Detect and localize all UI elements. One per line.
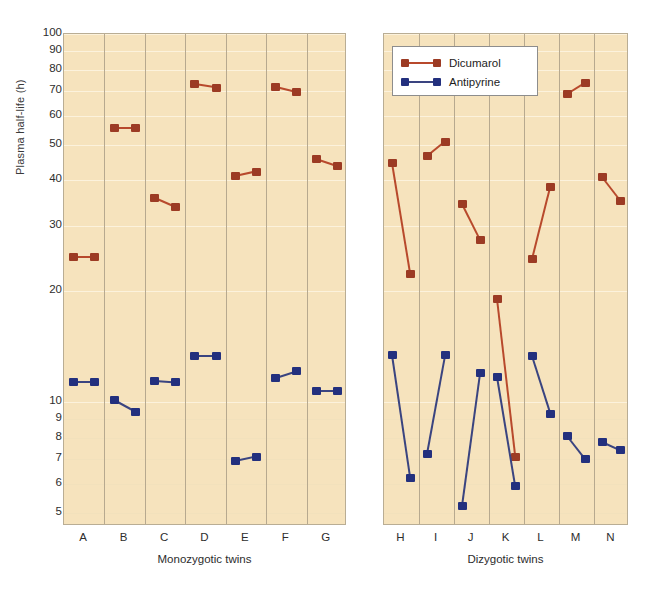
y-axis-tick-50: 50	[30, 138, 62, 150]
plot-panel-monozygotic	[63, 33, 346, 525]
data-point-antipyrine-B-twin2	[131, 408, 140, 416]
gridline-7	[384, 459, 627, 460]
data-point-dicumarol-D-twin1	[190, 80, 199, 88]
data-point-antipyrine-G-twin1	[312, 387, 321, 395]
data-point-dicumarol-K-twin2	[511, 453, 520, 461]
data-point-antipyrine-H-twin1	[388, 351, 397, 359]
y-axis-tick-60: 60	[30, 109, 62, 121]
data-point-dicumarol-J-twin2	[476, 236, 485, 244]
data-point-dicumarol-C-twin2	[171, 203, 180, 211]
legend-item-antipyrine: Antipyrine	[401, 72, 529, 91]
gridline-20	[384, 291, 627, 292]
data-point-dicumarol-G-twin2	[333, 162, 342, 170]
gridline-40	[64, 180, 345, 181]
data-point-antipyrine-N-twin2	[616, 446, 625, 454]
y-axis-tick-70: 70	[30, 84, 62, 96]
x-axis-tick-K: K	[486, 531, 526, 543]
gridline-30	[384, 226, 627, 227]
data-point-antipyrine-D-twin2	[212, 352, 221, 360]
y-axis-tick-7: 7	[30, 452, 62, 464]
data-point-dicumarol-N-twin1	[598, 173, 607, 181]
gridline-10	[384, 402, 627, 403]
data-point-dicumarol-F-twin1	[271, 83, 280, 91]
gridline-5	[64, 513, 345, 514]
x-axis-tick-H: H	[381, 531, 421, 543]
gridline-8	[64, 438, 345, 439]
gridline-100	[64, 34, 345, 35]
legend-swatch-antipyrine	[401, 76, 441, 88]
data-point-antipyrine-D-twin1	[190, 352, 199, 360]
pair-connector-antipyrine-H	[391, 355, 411, 478]
x-axis-tick-E: E	[225, 531, 265, 543]
data-point-dicumarol-B-twin2	[131, 124, 140, 132]
data-point-dicumarol-L-twin1	[528, 255, 537, 263]
x-axis-tick-M: M	[556, 531, 596, 543]
legend-label-dicumarol: Dicumarol	[449, 57, 501, 69]
gridline-10	[64, 402, 345, 403]
y-axis-tick-20: 20	[30, 284, 62, 296]
y-axis-tick-9: 9	[30, 412, 62, 424]
data-point-dicumarol-M-twin1	[563, 90, 572, 98]
data-point-dicumarol-N-twin2	[616, 197, 625, 205]
data-point-dicumarol-A-twin2	[90, 253, 99, 261]
column-separator	[185, 34, 186, 524]
data-point-antipyrine-G-twin2	[333, 387, 342, 395]
pair-connector-antipyrine-I	[426, 355, 446, 455]
x-axis-title-monozygotic: Monozygotic twins	[63, 553, 346, 565]
y-axis-tick-5: 5	[30, 506, 62, 518]
x-axis-tick-L: L	[521, 531, 561, 543]
column-separator	[594, 34, 595, 524]
data-point-dicumarol-H-twin1	[388, 159, 397, 167]
x-axis-tick-D: D	[185, 531, 225, 543]
column-separator	[145, 34, 146, 524]
data-point-dicumarol-C-twin1	[150, 194, 159, 202]
y-axis-tick-80: 80	[30, 63, 62, 75]
data-point-dicumarol-H-twin2	[406, 270, 415, 278]
data-point-antipyrine-F-twin1	[271, 374, 280, 382]
gridline-80	[64, 70, 345, 71]
data-point-dicumarol-D-twin2	[212, 84, 221, 92]
gridline-90	[64, 51, 345, 52]
data-point-antipyrine-E-twin1	[231, 457, 240, 465]
data-point-antipyrine-K-twin1	[493, 373, 502, 381]
column-separator	[307, 34, 308, 524]
data-point-antipyrine-C-twin1	[150, 377, 159, 385]
gridline-100	[384, 34, 627, 35]
gridline-60	[384, 116, 627, 117]
data-point-antipyrine-K-twin2	[511, 482, 520, 490]
gridline-30	[64, 226, 345, 227]
column-separator	[226, 34, 227, 524]
data-point-dicumarol-J-twin1	[458, 200, 467, 208]
gridline-5	[384, 513, 627, 514]
x-axis-tick-N: N	[591, 531, 631, 543]
data-point-antipyrine-B-twin1	[110, 396, 119, 404]
y-axis-tick-30: 30	[30, 219, 62, 231]
data-point-dicumarol-G-twin1	[312, 155, 321, 163]
legend-item-dicumarol: Dicumarol	[401, 53, 529, 72]
data-point-antipyrine-A-twin2	[90, 378, 99, 386]
x-axis-title-dizygotic: Dizygotic twins	[383, 553, 628, 565]
x-axis-tick-C: C	[144, 531, 184, 543]
y-axis-tick-6: 6	[30, 477, 62, 489]
x-axis-tick-F: F	[265, 531, 305, 543]
pair-connector-antipyrine-J	[461, 373, 481, 507]
gridline-9	[64, 419, 345, 420]
gridline-20	[64, 291, 345, 292]
legend: Dicumarol Antipyrine	[392, 46, 538, 96]
data-point-dicumarol-M-twin2	[581, 79, 590, 87]
x-axis-tick-B: B	[104, 531, 144, 543]
pair-connector-dicumarol-J	[461, 204, 481, 241]
y-axis-tick-90: 90	[30, 44, 62, 56]
data-point-dicumarol-I-twin1	[423, 152, 432, 160]
data-point-antipyrine-I-twin1	[423, 450, 432, 458]
column-separator	[419, 34, 420, 524]
y-axis-tick-10: 10	[30, 395, 62, 407]
chart-root: Plasma half-life (h) 1009080706050403020…	[0, 0, 656, 597]
data-point-antipyrine-L-twin2	[546, 410, 555, 418]
data-point-antipyrine-M-twin2	[581, 455, 590, 463]
gridline-7	[64, 459, 345, 460]
y-axis-title: Plasma half-life (h)	[14, 0, 26, 175]
data-point-antipyrine-M-twin1	[563, 432, 572, 440]
data-point-dicumarol-F-twin2	[292, 88, 301, 96]
plot-panel-dizygotic	[383, 33, 628, 525]
